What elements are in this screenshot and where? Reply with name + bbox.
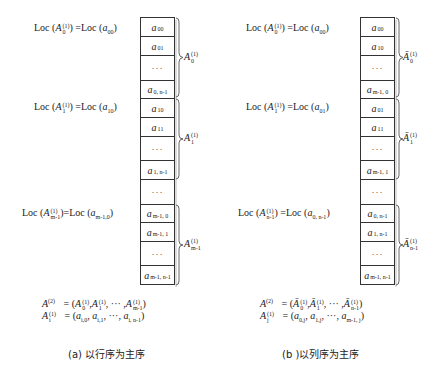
array-cell-ellipsis: ··· [361, 242, 394, 266]
array-cell: a10 [141, 99, 174, 118]
array-cell-ellipsis: ··· [361, 180, 394, 205]
formula-Aj: A(1)j = (a0,j, a1,j, ···, am-1, j) [260, 309, 364, 327]
loc-label-row-0: Loc (A(1)0) =Loc (a00) [34, 22, 117, 35]
loc-label-col-last: Loc (A(1)n-1) =Loc (a0, n-1) [238, 207, 330, 220]
caption-column-major: (b )以列序为主序 [282, 346, 359, 361]
array-cell: am-1, 0 [141, 205, 174, 223]
array-cell: am-1, 1 [361, 161, 394, 180]
brace-icon [176, 17, 183, 98]
panel-column-major: Loc (A(1)0) =Loc (a00) Loc (A(1)1) =Loc … [220, 0, 439, 373]
brace-icon [396, 98, 403, 180]
memory-array-column-major: a00 a10 ··· am-1, 0 a01 a11 ··· am-1, 1 … [360, 17, 395, 285]
caption-row-major: (a) 以行序为主序 [68, 346, 145, 361]
subarray-label-1: A(1)1 [184, 132, 198, 146]
array-cell: a00 [141, 18, 174, 37]
array-cell: am-1, n-1 [141, 266, 174, 285]
array-cell: a11 [141, 118, 174, 137]
subarray-label-last: Ā(1)n-1 [403, 238, 418, 252]
brace-icon [396, 17, 403, 98]
array-cell: a01 [361, 99, 394, 118]
loc-label-col-0: Loc (A(1)0) =Loc (a00) [246, 22, 329, 35]
array-cell-ellipsis: ··· [141, 242, 174, 266]
array-cell: a0, n-1 [361, 205, 394, 223]
subarray-label-0: A(1)0 [184, 51, 198, 65]
array-cell: a01 [141, 37, 174, 56]
array-cell: am-1, n-1 [361, 266, 394, 285]
array-cell: a11 [361, 118, 394, 137]
subarray-label-0: Ā(1)0 [403, 51, 417, 65]
memory-array-row-major: a00 a01 ··· a0, n-1 a10 a11 ··· a1, n-1 … [140, 17, 175, 285]
array-cell-ellipsis: ··· [361, 137, 394, 161]
panel-row-major: Loc (A(1)0) =Loc (a00) Loc (A(1)1) =Loc … [0, 0, 220, 373]
array-cell: a0, n-1 [141, 81, 174, 99]
array-cell: a1, n-1 [361, 223, 394, 242]
loc-label-row-1: Loc (A(1)1) =Loc (a10) [34, 101, 117, 114]
loc-label-row-last: Loc (A(1)m-1)=Loc (am-1,0) [22, 207, 113, 220]
brace-icon [176, 204, 183, 286]
brace-icon [396, 204, 403, 286]
array-cell: am-1, 1 [141, 223, 174, 242]
array-cell-ellipsis: ··· [141, 56, 174, 81]
formula-Ai: A(1)i = (ai,0, ai,1, ···, ai, n-1) [42, 309, 144, 327]
array-cell-ellipsis: ··· [141, 180, 174, 205]
subarray-label-1: Ā(1)1 [403, 132, 417, 146]
array-cell: a1, n-1 [141, 161, 174, 180]
array-cell: a10 [361, 37, 394, 56]
array-cell: a00 [361, 18, 394, 37]
loc-label-col-1: Loc (A(1)1) =Loc (a01) [246, 101, 329, 114]
array-cell: am-1, 0 [361, 81, 394, 99]
brace-icon [176, 98, 183, 180]
array-cell-ellipsis: ··· [141, 137, 174, 161]
array-cell-ellipsis: ··· [361, 56, 394, 81]
subarray-label-last: A(1)m-1 [184, 238, 201, 252]
